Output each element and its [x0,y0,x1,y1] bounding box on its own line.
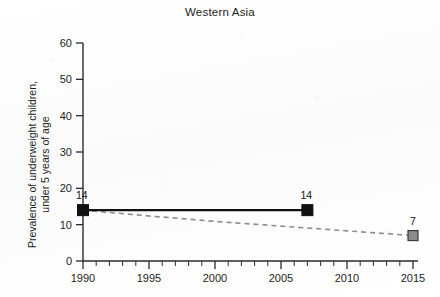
y-tick-label: 30 [60,146,72,158]
x-tick-label: 2005 [269,272,293,284]
x-tick-label: 1990 [71,272,95,284]
x-axis-ticks: 199019952000200520102015 [71,261,425,284]
series-observed [78,205,313,216]
observed-marker [78,205,89,216]
y-tick-label: 40 [60,110,72,122]
trend-line [83,210,413,235]
x-tick-label: 2015 [401,272,425,284]
chart-plot: 0102030405060 199019952000200520102015 1… [0,0,440,297]
y-tick-label: 60 [60,37,72,49]
chart-page: Western Asia Prevalence of underweight c… [0,0,440,297]
x-tick-label: 1995 [137,272,161,284]
x-tick-label: 2010 [335,272,359,284]
data-point-label: 14 [300,189,312,201]
data-point-label: 7 [410,215,416,227]
observed-marker [302,205,313,216]
x-axis-minor-ticks [96,261,400,266]
y-axis-ticks: 0102030405060 [60,37,83,267]
series-projected-trend [83,210,418,240]
y-tick-label: 10 [60,219,72,231]
data-point-label: 14 [76,189,88,201]
data-point-labels: 14147 [76,189,416,226]
y-tick-label: 50 [60,73,72,85]
trend-marker [408,231,418,241]
y-tick-label: 20 [60,182,72,194]
y-tick-label: 0 [66,255,72,267]
x-tick-label: 2000 [203,272,227,284]
